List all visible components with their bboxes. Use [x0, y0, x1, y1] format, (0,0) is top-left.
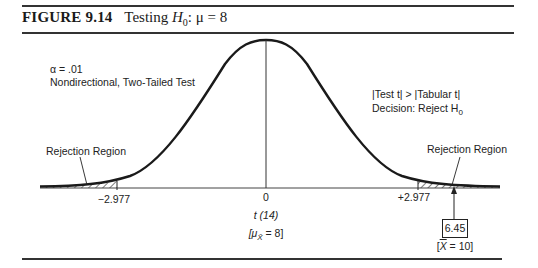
alpha-label: α = .01 — [50, 63, 83, 75]
right-critical-value: +2.977 — [398, 191, 430, 203]
left-rejection-label: Rejection Region — [46, 145, 126, 157]
left-critical-value: −2.977 — [98, 193, 130, 205]
center-mean-label: [μX̄ = 8] — [249, 227, 284, 242]
right-rejection-label: Rejection Region — [427, 143, 507, 155]
comparison-label: |Test t| > |Tabular t| — [372, 88, 460, 100]
distribution-label: t (14) — [254, 209, 279, 221]
right-region-pointer — [452, 157, 460, 185]
test-statistic-box: 6.45 — [442, 219, 468, 238]
sample-mean-label: [X = 10] — [437, 240, 474, 252]
decision-label: Decision: Reject H0 — [372, 102, 463, 117]
test-type-label: Nondirectional, Two-Tailed Test — [50, 76, 195, 88]
bottom-rule — [22, 258, 502, 260]
left-region-pointer — [80, 157, 87, 185]
center-value: 0 — [263, 191, 269, 203]
